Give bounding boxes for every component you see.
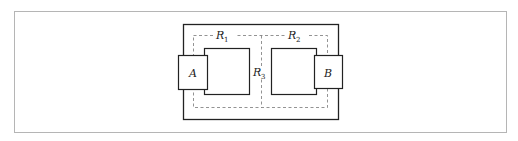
- label-r3: R 3: [252, 66, 269, 81]
- label-r1: R 1: [213, 29, 235, 44]
- label-r2: R 2: [285, 29, 307, 44]
- label-b: B: [323, 67, 332, 80]
- svg-text:2: 2: [296, 36, 300, 44]
- inner-left-box: [205, 49, 250, 95]
- svg-text:1: 1: [224, 36, 228, 44]
- svg-text:R: R: [215, 29, 224, 42]
- svg-text:R: R: [252, 66, 261, 79]
- diagram-canvas: A B R 1 R 2 R 3: [0, 0, 518, 141]
- label-a: A: [188, 67, 197, 80]
- svg-text:R: R: [287, 29, 296, 42]
- svg-text:3: 3: [261, 73, 265, 81]
- inner-right-box: [272, 49, 317, 95]
